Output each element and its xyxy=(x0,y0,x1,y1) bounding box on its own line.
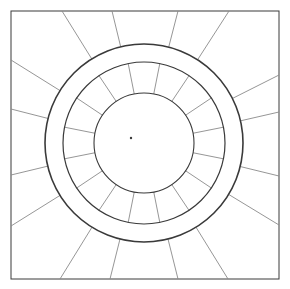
concentric-circles-diagram xyxy=(0,0,290,289)
outer-radial-line xyxy=(196,227,228,279)
inner-spoke-line xyxy=(154,192,160,222)
inner-spoke-line xyxy=(65,153,95,159)
outer-radial-line xyxy=(11,109,48,118)
outer-radial-line xyxy=(240,112,279,121)
inner-spoke-line xyxy=(65,127,95,133)
inner-spoke-line xyxy=(128,192,134,222)
inner-spoke-line xyxy=(172,185,189,211)
core-circle xyxy=(94,93,194,193)
outer-ring-circle xyxy=(45,44,243,242)
inner-ring-circle xyxy=(63,62,225,224)
inner-band-spokes xyxy=(65,64,224,223)
outer-radial-lines xyxy=(11,11,279,279)
outer-radial-line xyxy=(60,227,92,279)
outer-radial-line xyxy=(232,75,279,98)
inner-spoke-line xyxy=(172,76,189,102)
outer-radial-line xyxy=(198,11,229,60)
diagram-canvas xyxy=(0,0,290,289)
inner-spoke-line xyxy=(77,171,103,188)
outer-radial-line xyxy=(11,195,60,226)
inner-spoke-line xyxy=(186,171,212,188)
inner-spoke-line xyxy=(77,98,103,115)
outer-radial-line xyxy=(240,167,279,176)
outer-radial-line xyxy=(62,11,92,59)
square-frame xyxy=(11,11,279,279)
outer-radial-line xyxy=(168,239,178,279)
outer-radial-line xyxy=(112,11,121,47)
inner-spoke-line xyxy=(128,64,134,94)
outer-radial-line xyxy=(229,194,279,225)
center-dot xyxy=(130,137,132,139)
inner-spoke-line xyxy=(99,76,116,102)
inner-spoke-line xyxy=(193,153,223,159)
outer-radial-line xyxy=(11,60,60,91)
outer-radial-line xyxy=(169,11,178,47)
inner-spoke-line xyxy=(193,127,223,133)
inner-spoke-line xyxy=(154,64,160,94)
outer-radial-line xyxy=(11,166,48,175)
outer-radial-line xyxy=(110,239,120,279)
inner-spoke-line xyxy=(99,185,116,211)
inner-spoke-line xyxy=(186,98,212,115)
